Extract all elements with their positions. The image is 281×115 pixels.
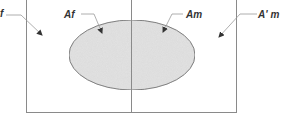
label-inner-right: Am bbox=[185, 9, 202, 20]
venn-region-diagram: f Af Am A' m bbox=[0, 0, 281, 115]
label-outer-left: f bbox=[0, 8, 5, 19]
label-outer-right: A' m bbox=[257, 9, 279, 20]
leader-arrow-outer-left bbox=[6, 15, 42, 35]
label-inner-left: Af bbox=[63, 9, 76, 20]
leader-arrow-outer-right bbox=[219, 14, 257, 37]
